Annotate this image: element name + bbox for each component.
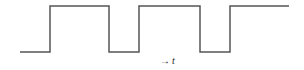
right-arrow-icon: → — [160, 55, 170, 66]
time-variable: t — [172, 55, 175, 66]
square-wave-diagram: →t — [0, 0, 304, 70]
time-axis-label: →t — [160, 56, 175, 66]
waveform-canvas — [0, 0, 304, 70]
square-wave-line — [20, 6, 289, 52]
